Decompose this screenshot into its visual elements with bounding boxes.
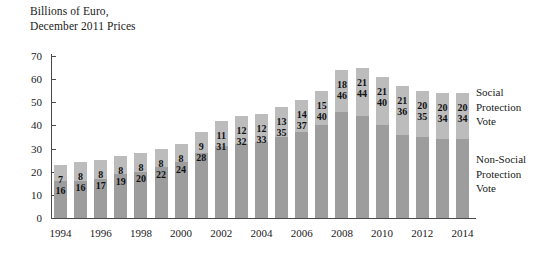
bar-value-label-social: 20 — [456, 103, 469, 113]
bar-segment-non-social-protection-vote — [255, 142, 268, 218]
bar-value-label-non-social: 32 — [235, 137, 248, 147]
bar-value-label-non-social: 28 — [195, 153, 208, 163]
bar-value-label-non-social: 24 — [175, 165, 188, 175]
bar-value-label-non-social: 36 — [396, 107, 409, 117]
y-axis-tick-label: 50 — [12, 97, 42, 108]
y-axis-tick — [51, 149, 56, 150]
bar-value-label-social: 14 — [295, 110, 308, 120]
bar-value-label-social: 21 — [396, 96, 409, 106]
bar-segment-non-social-protection-vote — [456, 139, 469, 218]
bar-value-label-social: 21 — [356, 78, 369, 88]
x-axis-label-2012: 2012 — [402, 228, 442, 239]
bar-value-label-non-social: 19 — [114, 177, 127, 187]
bar-value-label-non-social: 16 — [54, 186, 67, 196]
bar-value-label-non-social: 16 — [74, 183, 87, 193]
bar-value-label-non-social: 35 — [416, 112, 429, 122]
y-axis-tick — [51, 218, 56, 219]
x-axis-label-2010: 2010 — [362, 228, 402, 239]
bar-value-label-social: 7 — [54, 175, 67, 185]
y-axis-tick-label: 10 — [12, 190, 42, 201]
legend-item-social-protection-vote: Social Protection Vote — [476, 85, 521, 129]
x-axis-label-2002: 2002 — [201, 228, 241, 239]
bar-value-label-non-social: 31 — [215, 142, 228, 152]
x-axis-label-1998: 1998 — [121, 228, 161, 239]
x-axis-label-2014: 2014 — [443, 228, 483, 239]
y-axis-tick — [51, 125, 56, 126]
legend-item-non-social-protection-vote: Non-Social Protection Vote — [476, 152, 526, 196]
bar-segment-non-social-protection-vote — [235, 144, 248, 218]
x-axis-label-2000: 2000 — [161, 228, 201, 239]
bar-value-label-social: 11 — [215, 131, 228, 141]
y-axis-tick-label: 40 — [12, 120, 42, 131]
bar-value-label-social: 13 — [275, 117, 288, 127]
bar-segment-non-social-protection-vote — [396, 135, 409, 218]
bar-segment-non-social-protection-vote — [295, 132, 308, 218]
bar-value-label-social: 8 — [155, 159, 168, 169]
bar-value-label-social: 18 — [335, 80, 348, 90]
y-axis-tick-label: 0 — [12, 213, 42, 224]
bar-value-label-non-social: 20 — [134, 174, 147, 184]
bar-segment-non-social-protection-vote — [416, 137, 429, 218]
bar-value-label-non-social: 17 — [94, 181, 107, 191]
bar-value-label-social: 21 — [376, 87, 389, 97]
bar-value-label-social: 20 — [416, 101, 429, 111]
x-axis-label-1996: 1996 — [81, 228, 121, 239]
y-axis-tick — [51, 79, 56, 80]
bar-value-label-non-social: 34 — [436, 114, 449, 124]
bar-segment-non-social-protection-vote — [356, 116, 369, 218]
bar-value-label-non-social: 33 — [255, 135, 268, 145]
bar-value-label-non-social: 40 — [315, 112, 328, 122]
bar-value-label-social: 8 — [175, 154, 188, 164]
bar-segment-non-social-protection-vote — [315, 125, 328, 218]
x-axis-label-2006: 2006 — [282, 228, 322, 239]
bar-value-label-social: 15 — [315, 101, 328, 111]
x-axis-line — [51, 218, 476, 219]
bar-value-label-social: 12 — [255, 124, 268, 134]
bar-value-label-non-social: 37 — [295, 121, 308, 131]
bar-value-label-social: 9 — [195, 142, 208, 152]
y-axis-tick-label: 60 — [12, 74, 42, 85]
bar-segment-non-social-protection-vote — [376, 125, 389, 218]
y-axis-tick-label: 30 — [12, 144, 42, 155]
bar-value-label-social: 8 — [114, 166, 127, 176]
y-axis-tick-label: 20 — [12, 167, 42, 178]
bar-value-label-non-social: 35 — [275, 128, 288, 138]
bar-value-label-social: 8 — [74, 172, 87, 182]
bar-segment-non-social-protection-vote — [275, 137, 288, 218]
bar-value-label-social: 8 — [94, 170, 107, 180]
y-axis-tick — [51, 102, 56, 103]
bar-segment-non-social-protection-vote — [436, 139, 449, 218]
x-axis-label-2008: 2008 — [322, 228, 362, 239]
y-axis-tick — [51, 56, 56, 57]
stacked-bar-chart: Billions of Euro, December 2011 Prices 0… — [0, 0, 539, 255]
bar-value-label-social: 12 — [235, 126, 248, 136]
bar-value-label-non-social: 46 — [335, 91, 348, 101]
bar-value-label-non-social: 22 — [155, 170, 168, 180]
bar-value-label-social: 8 — [134, 163, 147, 173]
bar-value-label-non-social: 40 — [376, 98, 389, 108]
bar-value-label-social: 20 — [436, 103, 449, 113]
bar-segment-non-social-protection-vote — [215, 146, 228, 218]
x-axis-label-1994: 1994 — [41, 228, 81, 239]
bar-segment-non-social-protection-vote — [335, 112, 348, 218]
chart-axis-title: Billions of Euro, December 2011 Prices — [30, 4, 136, 34]
y-axis-tick-label: 70 — [12, 51, 42, 62]
bar-value-label-non-social: 34 — [456, 114, 469, 124]
x-axis-label-2004: 2004 — [242, 228, 282, 239]
bar-value-label-non-social: 44 — [356, 89, 369, 99]
